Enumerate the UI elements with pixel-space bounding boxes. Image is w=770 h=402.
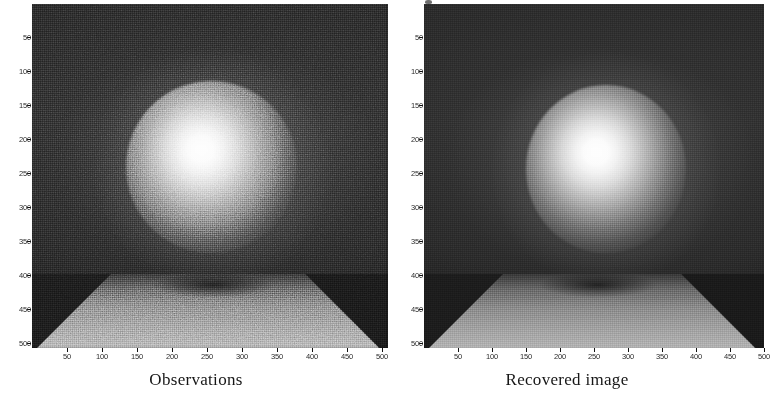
sphere [126,81,297,253]
y-tick-label: 150 [393,101,423,110]
x-tick-label: 100 [486,352,498,361]
x-tick-label: 400 [306,352,318,361]
y-tick-label: 500 [1,339,31,348]
x-tick-label: 500 [376,352,388,361]
y-tick-label: 300 [393,203,423,212]
x-tick-label: 150 [520,352,532,361]
y-tick-label: 400 [1,271,31,280]
table-edge-right [660,274,764,348]
x-tick-label: 250 [588,352,600,361]
x-tick-label: 50 [63,352,71,361]
y-tick-label: 150 [1,101,31,110]
y-tick-label: 200 [1,135,31,144]
x-tick-label: 250 [201,352,213,361]
panel-observations: 50 100 150 200 250 300 350 400 450 500 5… [0,0,392,402]
x-tick-label: 450 [724,352,736,361]
y-tick-label: 350 [1,237,31,246]
scene-recovered [424,4,764,348]
x-tick-label: 200 [166,352,178,361]
caption-observations: Observations [0,370,392,390]
y-tick-label: 300 [1,203,31,212]
x-tick-label: 150 [131,352,143,361]
x-tick-label: 350 [656,352,668,361]
x-tick-label: 450 [341,352,353,361]
y-tick-label: 100 [393,67,423,76]
x-tick-label: 300 [236,352,248,361]
cast-shadow [132,268,296,302]
x-tick-label: 350 [271,352,283,361]
y-tick-label: 400 [393,271,423,280]
panel-recovered-image: 50 100 150 200 250 300 350 400 450 500 5… [392,0,756,402]
y-tick-label: 50 [393,33,423,42]
x-axis-observations: 50 100 150 200 250 300 350 400 450 500 [32,348,388,364]
image-observations [32,4,388,348]
y-tick-label: 350 [393,237,423,246]
y-tick-label: 450 [1,305,31,314]
scene-observations [32,4,388,348]
y-tick-label: 200 [393,135,423,144]
table-edge-left [32,274,128,348]
x-tick-label: 300 [622,352,634,361]
table-edge-right [284,274,388,348]
y-tick-label: 100 [1,67,31,76]
x-tick-label: 50 [454,352,462,361]
y-tick-label: 250 [1,169,31,178]
y-tick-label: 250 [393,169,423,178]
x-tick-label: 500 [758,352,770,361]
table-edge-left [424,274,520,348]
image-recovered [424,4,764,348]
cast-shadow [519,268,675,302]
y-axis-observations: 50 100 150 200 250 300 350 400 450 500 [0,4,31,348]
sphere [526,85,686,254]
y-tick-label: 50 [1,33,31,42]
y-axis-recovered: 50 100 150 200 250 300 350 400 450 500 [392,4,423,348]
x-tick-label: 200 [554,352,566,361]
x-tick-label: 100 [96,352,108,361]
x-axis-recovered: 50 100 150 200 250 300 350 400 450 500 [424,348,764,364]
x-tick-label: 400 [690,352,702,361]
y-tick-label: 500 [393,339,423,348]
y-tick-label: 450 [393,305,423,314]
caption-recovered-image: Recovered image [392,370,742,390]
